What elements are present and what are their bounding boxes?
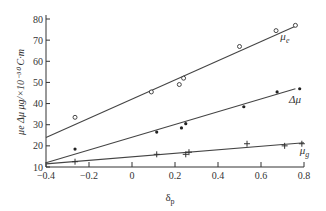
y-tick-label: 30	[33, 119, 43, 130]
filled-dot-marker	[73, 147, 76, 150]
series-label: Δμ	[288, 93, 301, 105]
filled-dot-marker	[155, 131, 158, 134]
y-tick-label: 80	[33, 14, 43, 25]
fit-line	[46, 143, 304, 164]
y-tick-label: 70	[33, 35, 43, 46]
plus-marker	[244, 141, 250, 147]
y-tick-label: 40	[33, 98, 43, 109]
plus-marker	[154, 151, 160, 157]
x-ticks: −0.4−0.200.20.40.60.8	[37, 162, 310, 181]
scatter-plot: −0.4−0.200.20.40.60.8 1020304050607080 μ…	[0, 0, 326, 211]
open-circle-marker	[149, 90, 153, 94]
open-circle-marker	[177, 83, 181, 87]
fit-lines	[46, 25, 304, 163]
filled-dot-marker	[184, 122, 187, 125]
data-points	[72, 23, 305, 164]
x-tick-label: 0.8	[298, 170, 311, 181]
open-circle-marker	[293, 23, 297, 27]
x-axis-label: δp	[165, 191, 174, 206]
open-circle-marker	[274, 29, 278, 33]
y-ticks: 1020304050607080	[33, 14, 50, 173]
plus-marker	[72, 159, 78, 165]
chart-container: −0.4−0.200.20.40.60.8 1020304050607080 μ…	[0, 0, 326, 211]
open-circle-marker	[238, 44, 242, 48]
y-tick-label: 50	[33, 77, 43, 88]
x-tick-label: 0	[130, 170, 135, 181]
y-axis-label: μe Δμ μg/×10⁻³⁰ C·m	[15, 49, 26, 136]
y-tick-label: 60	[33, 56, 43, 67]
series-label: μg	[299, 144, 310, 159]
y-tick-label: 20	[33, 140, 43, 151]
open-circle-marker	[182, 76, 186, 80]
x-tick-label: −0.2	[80, 170, 98, 181]
filled-dot-marker	[180, 126, 183, 129]
fit-line	[46, 25, 298, 137]
filled-dot-marker	[242, 105, 245, 108]
x-tick-label: 0.4	[212, 170, 225, 181]
filled-dot-marker	[276, 90, 279, 93]
series-label: μe	[279, 30, 290, 45]
x-tick-label: 0.2	[169, 170, 182, 181]
open-circle-marker	[73, 115, 77, 119]
series-labels: μeΔμμg	[279, 30, 309, 159]
x-tick-label: 0.6	[255, 170, 268, 181]
y-tick-label: 10	[33, 162, 43, 173]
fit-line	[46, 89, 295, 163]
filled-dot-marker	[298, 87, 301, 90]
